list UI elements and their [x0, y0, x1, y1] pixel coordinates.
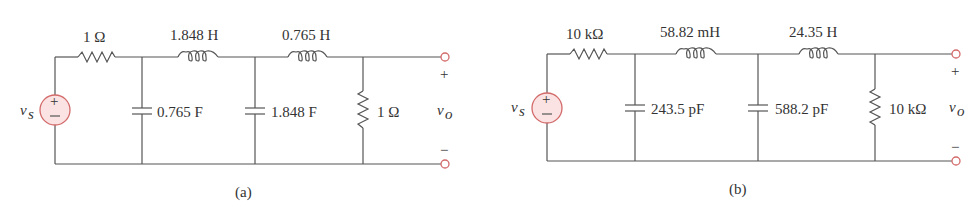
resistor-icon	[570, 49, 607, 59]
output-terminal-positive	[441, 53, 449, 61]
capacitor-2-label: 1.848 F	[271, 104, 317, 120]
capacitor-2-label: 588.2 pF	[775, 101, 828, 117]
output-minus: −	[951, 139, 959, 155]
inductor-1-label: 58.82 mH	[660, 24, 720, 40]
load-resistor-label: 1 Ω	[377, 104, 399, 120]
resistor-icon	[870, 89, 880, 125]
inductor-2-label: 24.35 H	[789, 24, 838, 40]
inductor-icon	[676, 48, 716, 58]
circuit-diagram: + v s + − v o 1 Ω 1.848 H 0.765 H 0.765 …	[0, 0, 979, 211]
resistor-icon	[358, 91, 368, 128]
output-terminal-positive	[952, 50, 960, 58]
inductor-1-label: 1.848 H	[170, 27, 219, 43]
output-subscript: o	[957, 103, 965, 119]
source-subscript: s	[519, 103, 525, 119]
capacitor-1-label: 243.5 pF	[651, 101, 704, 117]
resistor-icon	[78, 52, 115, 62]
capacitor-1-label: 0.765 F	[157, 104, 203, 120]
inductor-2-label: 0.765 H	[282, 27, 331, 43]
output-plus: +	[951, 63, 959, 79]
circuit-b: + v s + − v o 10 kΩ 58.82 mH 24.35 H 243…	[511, 24, 965, 198]
source-plus: +	[542, 91, 550, 107]
inductor-icon	[178, 51, 218, 61]
inductor-icon	[288, 51, 327, 61]
source-label: v	[511, 99, 518, 115]
output-terminal-negative	[952, 157, 960, 165]
load-resistor-label: 10 kΩ	[889, 101, 926, 117]
source-label: v	[20, 102, 27, 118]
series-resistor-label: 10 kΩ	[566, 26, 603, 42]
series-resistor-label: 1 Ω	[83, 29, 105, 45]
inductor-icon	[799, 48, 838, 58]
output-label: v	[437, 102, 444, 118]
output-plus: +	[440, 66, 448, 82]
source-subscript: s	[28, 106, 34, 122]
source-plus: +	[50, 93, 58, 109]
output-terminal-negative	[441, 160, 449, 168]
circuit-a: + v s + − v o 1 Ω 1.848 H 0.765 H 0.765 …	[20, 27, 453, 201]
caption-b: (b)	[729, 181, 747, 198]
output-label: v	[949, 99, 956, 115]
output-minus: −	[440, 142, 448, 158]
caption-a: (a)	[235, 184, 252, 201]
output-subscript: o	[445, 106, 453, 122]
